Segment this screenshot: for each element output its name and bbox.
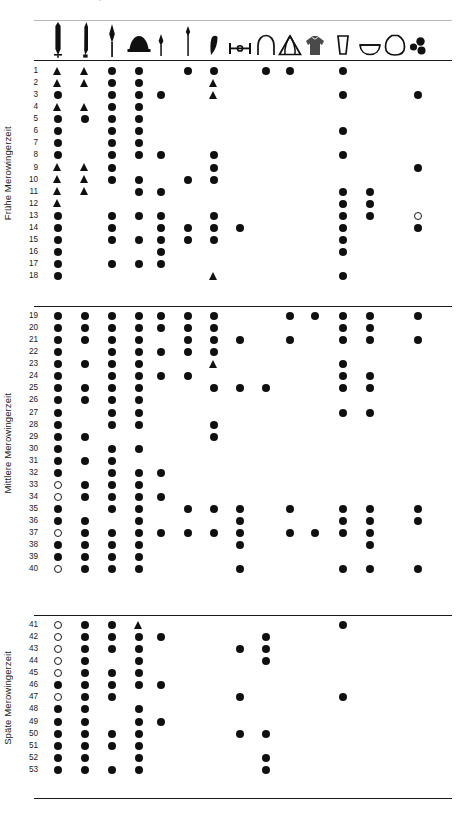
matrix-marker-dot-shield-boss [135,657,143,665]
matrix-marker-dot-bowl-vessel [366,505,374,513]
matrix-marker-dot-shield-boss [135,188,143,196]
matrix-marker-dot-arrowhead-tall [184,505,192,513]
matrix-marker-open-spatha-sword [54,529,62,537]
matrix-marker-dot-spatha-sword [54,312,62,320]
matrix-marker-dot-belt-buckle [236,645,244,653]
matrix-marker-open-spatha-sword [54,493,62,501]
period-label-mittel: Mittlere Merowingerzeit [0,308,14,577]
row-number: 16 [22,247,38,257]
matrix-marker-dot-belt-buckle [236,384,244,392]
matrix-marker-dot-sax-knife [81,730,89,738]
matrix-marker-tri-spatha-sword [53,175,61,183]
matrix-marker-dot-sax-knife [81,433,89,441]
matrix-marker-open-spatha-sword [54,565,62,573]
matrix-marker-dot-belt-buckle [236,541,244,549]
row-number: 32 [22,468,38,478]
matrix-marker-dot-spatha-sword [54,421,62,429]
matrix-marker-dot-francisca-axe [210,312,218,320]
matrix-marker-dot-sax-knife [81,754,89,762]
matrix-marker-dot-arrowhead-tall [184,312,192,320]
matrix-marker-dot-arrowhead-small [157,248,165,256]
matrix-marker-dot-shield-boss [135,718,143,726]
matrix-marker-dot-spatha-sword [54,372,62,380]
matrix-marker-dot-lance-head [108,384,116,392]
row-number: 34 [22,492,38,502]
row-number: 14 [22,223,38,233]
matrix-marker-dot-arrowhead-small [157,324,165,332]
matrix-marker-dot-shield-boss [135,176,143,184]
matrix-marker-dot-shield-boss [135,421,143,429]
row-number: 50 [22,729,38,739]
matrix-marker-dot-lance-head [108,176,116,184]
row-number: 9 [22,163,38,173]
matrix-marker-dot-arrowhead-small [157,224,165,232]
matrix-marker-dot-triangular-brooch [286,312,294,320]
matrix-marker-dot-shield-boss [135,481,143,489]
matrix-marker-dot-lance-head [108,139,116,147]
matrix-marker-dot-shield-boss [135,372,143,380]
matrix-marker-dot-shield-boss [135,79,143,87]
period-label-frueh: Frühe Merowingerzeit [0,63,14,284]
matrix-marker-dot-sax-knife [81,541,89,549]
row-number: 12 [22,199,38,209]
matrix-marker-dot-belt-buckle [236,529,244,537]
matrix-marker-dot-shield-boss [135,212,143,220]
row-number: 49 [22,717,38,727]
matrix-marker-dot-beaker-glass [339,91,347,99]
row-number: 3 [22,90,38,100]
matrix-marker-dot-spatha-sword [54,681,62,689]
matrix-marker-tri-spatha-sword [53,67,61,75]
matrix-marker-dot-beads-cluster [414,224,422,232]
matrix-marker-open-spatha-sword [54,633,62,641]
matrix-marker-dot-lance-head [108,236,116,244]
matrix-marker-dot-lance-head [108,445,116,453]
matrix-marker-tri-spatha-sword [53,163,61,171]
row-number: 38 [22,540,38,550]
arrowhead-small-icon [148,20,174,58]
matrix-marker-dot-arrowhead-small [157,151,165,159]
row-number: 27 [22,408,38,418]
matrix-marker-dot-shield-boss [135,384,143,392]
matrix-marker-dot-arrowhead-small [157,348,165,356]
matrix-marker-dot-beaker-glass [339,312,347,320]
matrix-marker-dot-lance-head [108,633,116,641]
matrix-marker-dot-shield-boss [135,396,143,404]
matrix-marker-dot-spatha-sword [54,272,62,280]
matrix-marker-dot-bowl-vessel [366,517,374,525]
matrix-marker-open-spatha-sword [54,657,62,665]
matrix-marker-dot-shield-boss [135,67,143,75]
matrix-marker-dot-shield-boss [135,541,143,549]
matrix-marker-dot-lance-head [108,645,116,653]
matrix-marker-dot-beaker-glass [339,188,347,196]
matrix-marker-dot-belt-buckle [236,730,244,738]
lance-head-icon [99,20,125,58]
matrix-marker-dot-arrowhead-tall [184,336,192,344]
matrix-marker-dot-bowl-vessel [366,324,374,332]
matrix-marker-dot-sax-knife [81,633,89,641]
matrix-marker-dot-sax-knife [81,565,89,573]
arch-brooch-icon [253,20,279,58]
matrix-marker-dot-shield-boss [135,493,143,501]
matrix-marker-dot-shield-boss [135,565,143,573]
matrix-marker-dot-beads-cluster [414,517,422,525]
row-number: 33 [22,480,38,490]
row-number: 31 [22,456,38,466]
row-number: 1 [22,66,38,76]
row-number: 18 [22,271,38,281]
row-number: 47 [22,692,38,702]
matrix-marker-open-spatha-sword [54,693,62,701]
matrix-marker-dot-beaker-glass [339,67,347,75]
matrix-marker-dot-arrowhead-small [157,469,165,477]
row-number: 11 [22,187,38,197]
matrix-marker-dot-spatha-sword [54,457,62,465]
matrix-marker-dot-spatha-sword [54,766,62,774]
matrix-marker-dot-sax-knife [81,718,89,726]
matrix-marker-dot-belt-buckle [236,505,244,513]
matrix-marker-dot-spatha-sword [54,348,62,356]
matrix-marker-dot-shield-boss [135,445,143,453]
matrix-marker-dot-sax-knife [81,384,89,392]
matrix-marker-dot-spatha-sword [54,236,62,244]
matrix-marker-dot-spatha-sword [54,541,62,549]
matrix-marker-dot-bowl-vessel [366,409,374,417]
row-number: 51 [22,741,38,751]
